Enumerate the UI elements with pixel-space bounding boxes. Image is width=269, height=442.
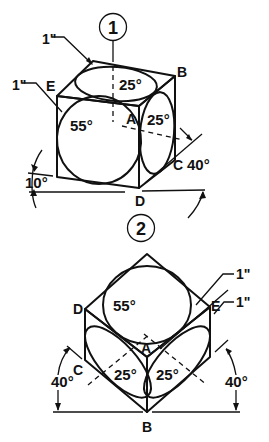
- figure-1-dim-left: 1": [12, 77, 26, 93]
- figure-2-angle-top: 55°: [113, 297, 136, 314]
- figure-2-angle-lower-left: 25°: [114, 366, 137, 383]
- figure-2-dim-upper: 1": [236, 266, 250, 282]
- figure-1-dim-leader-top: [52, 37, 92, 64]
- figure-2-label-D: D: [73, 301, 83, 317]
- figure-1-label-C: C: [173, 157, 183, 173]
- figure-2-angle-right-rotation: 40°: [225, 373, 248, 390]
- figure-2-cube: [85, 254, 210, 412]
- figure-1-label-D: D: [135, 193, 145, 209]
- figure-1-label-A: A: [126, 111, 136, 127]
- figure-1: 1: [12, 14, 210, 219]
- figure-1-angle-rotation: 40°: [187, 156, 210, 173]
- figure-2-angle-left-rotation: 40°: [51, 373, 74, 390]
- figure-2-label-A: A: [141, 340, 151, 356]
- figure-2: 2: [51, 215, 250, 436]
- figure-2-label-E: E: [211, 298, 220, 314]
- figure-1-label-B: B: [177, 64, 187, 80]
- figure-1-angle-top: 25°: [119, 76, 142, 93]
- figure-1-label-E: E: [46, 78, 55, 94]
- figure-2-label-C: C: [73, 362, 83, 378]
- figure-1-dim-top: 1": [42, 31, 56, 47]
- figure-2-angle-lower-right: 25°: [156, 366, 179, 383]
- figure-1-angle-left: 55°: [70, 117, 93, 134]
- figure-1-angle-right: 25°: [147, 111, 170, 128]
- figure-2-number: 2: [136, 219, 146, 239]
- ellipse-cube-diagram: 1: [0, 0, 269, 442]
- figure-2-dim-lower: 1": [236, 294, 250, 310]
- figure-1-angle-tilt: 10°: [25, 174, 48, 191]
- figure-1-number: 1: [108, 18, 118, 38]
- figure-2-label-B: B: [142, 419, 152, 435]
